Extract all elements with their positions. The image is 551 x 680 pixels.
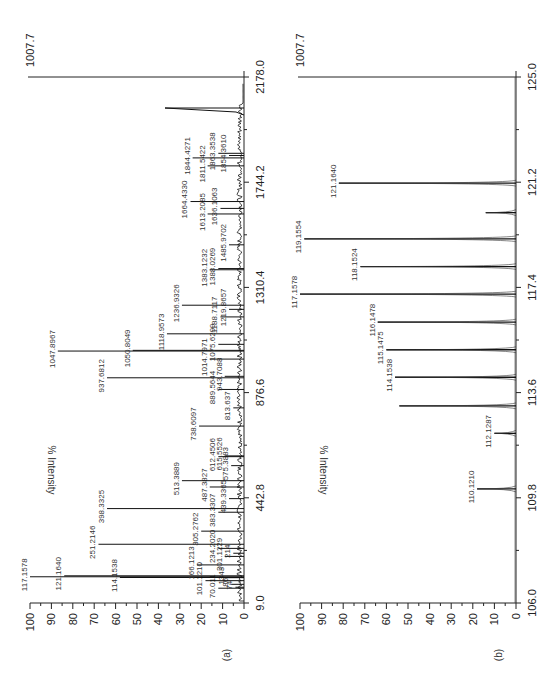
peak-label: 1388.0269 — [208, 247, 217, 285]
intensity-tick-label: 50 — [402, 613, 414, 625]
peak-label: 114.1538 — [110, 559, 119, 592]
peak-label: 251.2146 — [88, 525, 97, 559]
peak-label: 112.1287 — [484, 414, 493, 447]
peak-label: 119.1554 — [294, 220, 303, 253]
max-intensity-label: 1007.7 — [24, 33, 36, 67]
peak-label: 117.1578 — [20, 558, 29, 591]
peak-label: 214 — [223, 544, 232, 558]
intensity-tick-label: 40 — [152, 613, 164, 625]
max-intensity-label: 1007.7 — [294, 33, 306, 67]
peak-label: 1047.8967 — [48, 330, 57, 368]
intensity-tick-label: 100 — [294, 613, 306, 631]
intensity-tick-label: 30 — [445, 613, 457, 625]
peak-label: 813.637 — [223, 391, 232, 420]
intensity-tick-label: 60 — [110, 613, 122, 625]
intensity-tick-label: 100 — [24, 613, 36, 631]
intensity-tick-label: 10 — [488, 613, 500, 625]
peak-label: 116.1478 — [368, 303, 377, 336]
peak-label: 1219.8657 — [219, 288, 228, 326]
intensity-tick-label: 30 — [174, 613, 186, 625]
mz-tick-label: 2178.0 — [254, 60, 266, 94]
intensity-tick-label: 20 — [467, 613, 479, 625]
mass-spectrum-figure: 1007.701020304050607080901009.0442.8876.… — [0, 0, 551, 680]
intensity-tick-label: 70 — [359, 613, 371, 625]
intensity-tick-label: 60 — [380, 613, 392, 625]
intensity-tick-label: 50 — [131, 613, 143, 625]
mz-tick-label: 117.4 — [526, 274, 538, 301]
spectrum-panel-a: 1007.701020304050607080901009.0442.8876.… — [20, 33, 266, 661]
intensity-tick-label: 70 — [88, 613, 100, 625]
intensity-tick-label: 10 — [217, 613, 229, 625]
mz-tick-label: 121.2 — [526, 168, 538, 196]
intensity-tick-label: 0 — [510, 613, 522, 619]
peak-label: 1236.9326 — [172, 284, 181, 322]
mz-tick-label: 1744.2 — [254, 165, 266, 199]
peak-label: 937.6812 — [97, 359, 106, 393]
peak-label: 121.1640 — [329, 164, 338, 198]
peak-label: 101.1210 — [195, 561, 204, 595]
mz-tick-label: 109.8 — [526, 484, 538, 512]
peak-label: 117.1578 — [290, 275, 299, 308]
peak-label: 383.3307 — [208, 493, 217, 527]
spectrum-trace — [237, 84, 244, 601]
intensity-axis-title: % Intensity — [46, 446, 57, 495]
peak-label: 615.5526 — [215, 437, 224, 471]
mz-tick-label: 1310.4 — [254, 271, 266, 305]
mz-tick-label: 125.0 — [526, 63, 538, 91]
mz-tick-label: 442.8 — [254, 484, 266, 512]
peak-label: 305.2762 — [191, 512, 200, 546]
intensity-tick-label: 90 — [45, 613, 57, 625]
peak-label: 439.3365 — [219, 479, 228, 513]
peak-label: 1118.9573 — [157, 313, 166, 350]
peak-label: 513.3889 — [172, 461, 181, 495]
intensity-tick-label: 20 — [195, 613, 207, 625]
intensity-tick-label: 0 — [238, 613, 250, 619]
intensity-tick-label: 90 — [316, 613, 328, 625]
peak-label: 234.2020 — [208, 529, 217, 563]
peak-label: 1485.9702 — [219, 223, 228, 261]
peak-label: 487.3827 — [200, 468, 209, 502]
intensity-axis-title: % Intensity — [318, 446, 329, 495]
peak-label: 398.3325 — [97, 489, 106, 523]
peak-label: 738.6097 — [189, 407, 198, 441]
intensity-tick-label: 40 — [424, 613, 436, 625]
mz-tick-label: 113.6 — [526, 379, 538, 406]
mz-tick-label: 876.6 — [254, 379, 266, 407]
peak-label: 1664.4330 — [181, 180, 190, 218]
peak-label: 1636.1063 — [210, 187, 219, 225]
peak-label: 110.1210 — [467, 470, 476, 503]
intensity-tick-label: 80 — [67, 613, 79, 625]
peak-label: 1050.8049 — [123, 329, 132, 367]
peak-label: 1811.5422 — [198, 145, 207, 183]
peak-label: 115.1475 — [376, 331, 385, 364]
peak-label: 114.1538 — [385, 358, 394, 391]
peak-label: 166.1213 — [187, 546, 196, 580]
mz-tick-label: 9.0 — [254, 595, 266, 610]
peak-label: 1844.4271 — [183, 136, 192, 174]
spectrum-panel-b: 1007.70102030405060708090100106.0109.811… — [290, 33, 538, 661]
peak-label: 1863.3538 — [208, 132, 217, 170]
peak-label: 118.1524 — [350, 248, 359, 281]
peak-label: 1613.2085 — [198, 193, 207, 231]
mz-tick-label: 106.0 — [526, 589, 538, 617]
panel-tag: (a) — [221, 649, 232, 661]
panel-tag: (b) — [493, 649, 504, 661]
peak-label: 121.1640 — [54, 557, 63, 591]
intensity-tick-label: 80 — [337, 613, 349, 625]
